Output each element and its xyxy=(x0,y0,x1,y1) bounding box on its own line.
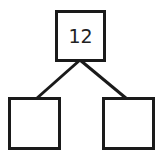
right-part-box[interactable] xyxy=(102,97,155,150)
whole-box: 12 xyxy=(55,10,106,62)
whole-value: 12 xyxy=(68,25,92,47)
right-connector xyxy=(80,60,127,99)
left-connector xyxy=(36,60,80,99)
left-part-box[interactable] xyxy=(8,97,61,150)
